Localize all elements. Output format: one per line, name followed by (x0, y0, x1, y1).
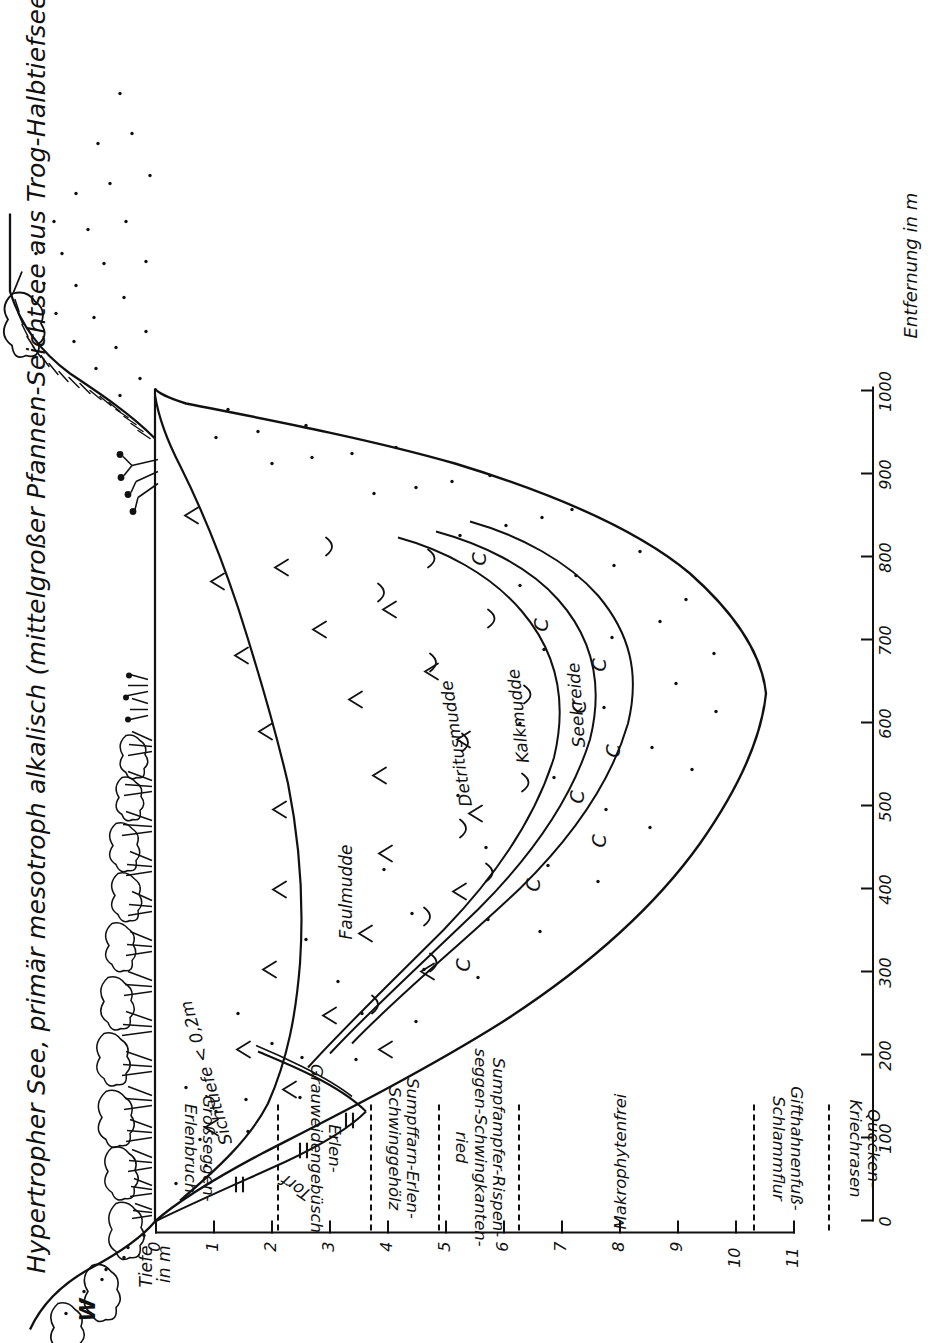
zone-separator (370, 1104, 372, 1230)
western-shore-slope (30, 1221, 155, 1329)
shore-stipple-west (64, 1233, 145, 1314)
svg-text:C: C (530, 617, 552, 631)
detritusmudde-symbols (326, 537, 468, 1013)
vegetation-zone-label-sumpfampfer-rispenseggen-schwingkantenried: Sumpfampfer-Rispen- seggen-Schwingkanten… (452, 1017, 507, 1277)
seekreide-symbols: C C C C C C C C C (452, 551, 624, 971)
svg-text:C: C (566, 789, 588, 803)
shore-stipple-east (34, 91, 151, 396)
svg-text:C: C (602, 743, 624, 757)
faulmudde-upper-boundary-lakebed (155, 395, 302, 1200)
detritusmudde-upper-boundary (308, 537, 560, 1067)
zone-separator (438, 1104, 440, 1230)
lake-cross-section-figure: Hypertropher See, primär mesotroph alkal… (0, 0, 940, 1343)
zone-separator (828, 1104, 830, 1230)
vegetation-zone-label-sumpffarn-erlen-schwinggehoelz: Sumpffarn-Erlen- Schwinggehölz (384, 1033, 421, 1263)
svg-text:C: C (452, 957, 474, 971)
mudflat-plants-icon (117, 451, 158, 515)
vegetation-zone-label-makrophytenfrei: Makrophytenfrei (612, 1061, 630, 1261)
svg-text:C: C (588, 657, 610, 671)
western-shore-vegetation-icons (97, 672, 152, 1259)
zone-separator (518, 1104, 520, 1230)
svg-text:C: C (468, 551, 490, 565)
eastern-shore-slope (10, 213, 155, 438)
sediment-label-faulmudde: Faulmudde (336, 844, 356, 939)
mineral-substrate-stipple (174, 407, 717, 1184)
vegetation-zone-label-quecken-kriechrasen: Quecken- Kriechrasen (845, 1033, 882, 1263)
vegetation-zone-label-gifthahnenfuss-schlammflur: Gifthahnenfuß- Schlammflur (768, 1033, 805, 1263)
vegetation-zone-label-erlen-grauweidengebuesch: Erlen- Grauweidengebüsch (306, 1033, 343, 1263)
zone-separator (277, 1104, 279, 1230)
diagram-canvas: Hypertropher See, primär mesotroph alkal… (0, 0, 940, 1343)
svg-text:C: C (522, 877, 544, 891)
seekreide-upper-boundary (352, 521, 633, 1043)
tree-western-bank-icon (51, 1264, 120, 1343)
zone-separator (753, 1104, 755, 1230)
svg-text:C: C (588, 833, 610, 847)
